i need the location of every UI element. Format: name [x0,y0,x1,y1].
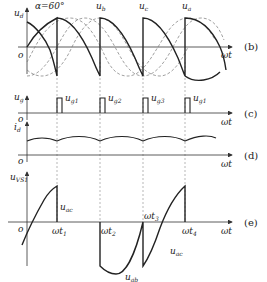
sync-lines [57,62,185,222]
panel-c-gate-pulses: ug o ug1 ug2 ug3 ug1 ωt (c) [14,92,258,127]
time-mark-t2: ωt2 [101,226,116,237]
ud-y-label: ud [14,8,24,19]
uvs1-y-label: uVS1 [10,172,28,183]
omega-t-d: ωt [221,159,232,169]
pulse-ug3-label: ug3 [151,93,165,105]
panel-d-load-current: id o ωt (d) [14,122,258,169]
phase-ua-label: ua [182,1,192,12]
phase-uc-label: uc [139,1,149,12]
panel-e-label: (e) [244,217,258,228]
origin-e: o [18,224,24,234]
panel-b-output-voltage: ud α=60° o ub uc ua ωt (b) [14,1,258,80]
omega-t-c: ωt [221,117,232,127]
segment-uac-label-2: uac [170,246,183,257]
time-mark-t3: ωt3 [144,211,159,222]
omega-t-b: ωt [221,50,232,60]
panel-c-label: (c) [244,108,258,119]
segment-uac-label-1: uac [60,202,73,213]
alpha-label: α=60° [35,1,65,11]
panel-e-thyristor-voltage: uVS1 o uac uab uac ωt1 ωt2 ωt3 ωt4 ωt (e… [8,172,258,282]
ug-y-label: ug [14,92,24,104]
pulse-ug1-label: ug1 [65,93,78,105]
panel-d-label: (d) [244,150,258,161]
segment-uab-label: uab [125,272,138,282]
time-mark-t1: ωt1 [52,226,67,237]
pulse-ug1b-label: ug1 [193,93,206,105]
phase-ub-label: ub [96,1,106,12]
thyristor-rectifier-waveform-diagram: ud α=60° o ub uc ua ωt (b) ug o ug1 ug2 … [0,0,267,282]
id-waveform [27,136,216,141]
omega-t-e: ωt [221,226,232,236]
panel-b-label: (b) [244,41,258,52]
pulse-ug2-label: ug2 [108,93,122,105]
origin-c: o [18,114,24,124]
origin-b: o [18,50,24,60]
origin-d: o [18,156,24,166]
time-mark-t4: ωt4 [182,226,197,237]
